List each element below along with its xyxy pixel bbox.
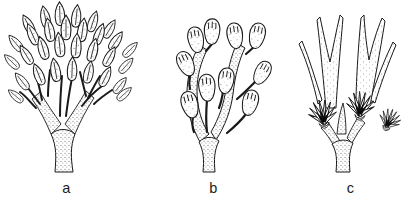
illustration-b [143, 0, 284, 180]
illustration-c [284, 0, 417, 180]
panel-a-label: a [62, 181, 70, 196]
illustration-a [0, 0, 143, 180]
panel-b: b [143, 0, 284, 196]
panel-c-label: c [347, 181, 355, 196]
panel-a: a [0, 0, 143, 196]
panel-c: c [284, 0, 417, 196]
panel-b-label: b [209, 181, 217, 196]
figure-canvas: a [0, 0, 417, 202]
branchlets-a [20, 70, 112, 116]
